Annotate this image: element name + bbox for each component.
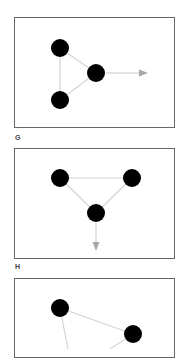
diagram-panel-h <box>14 148 175 259</box>
node <box>87 64 105 82</box>
node <box>51 169 69 187</box>
panel-label: H <box>15 263 20 270</box>
node <box>51 39 69 57</box>
graph-svg <box>15 18 176 129</box>
node <box>51 91 69 109</box>
arrow-head-icon <box>139 70 148 77</box>
node <box>124 325 142 343</box>
node <box>123 169 141 187</box>
graph-svg <box>15 279 176 359</box>
arrow-head-icon <box>93 242 100 251</box>
panel-label: G <box>15 134 20 141</box>
diagram-panel-3 <box>14 278 175 358</box>
node <box>87 204 105 222</box>
diagram-panel-g <box>14 17 175 128</box>
graph-svg <box>15 149 176 260</box>
edge <box>60 308 133 334</box>
node <box>51 299 69 317</box>
